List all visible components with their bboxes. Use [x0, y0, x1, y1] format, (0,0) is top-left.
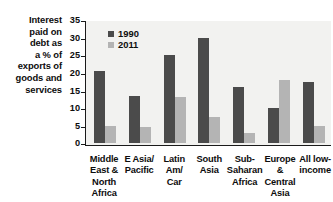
bar-1990: [94, 71, 105, 143]
bar-group: [192, 21, 227, 143]
bar-2011: [140, 127, 151, 144]
bar-group: [261, 21, 296, 143]
y-axis-tick-label: 25: [66, 52, 80, 61]
y-axis-caption-line: paid on: [0, 26, 62, 38]
x-axis-category-label-line: All low-: [298, 154, 333, 165]
bar-group: [296, 21, 331, 143]
x-axis-category-label: SouthAsia: [192, 154, 227, 200]
legend-item-2011: 2011: [108, 40, 139, 49]
x-axis-category-label-line: Pacific: [122, 165, 157, 176]
y-axis-caption-line: goods and: [0, 72, 62, 84]
y-axis-caption-line: Interest: [0, 14, 62, 26]
bar-2011: [105, 126, 116, 144]
y-axis-caption: Interestpaid ondebt asa % ofexports ofgo…: [0, 14, 62, 95]
y-axis-tick-label: 30: [66, 34, 80, 43]
chart-legend: 19902011: [108, 29, 139, 50]
bar-2011: [244, 133, 255, 144]
x-axis-category-label-line: Latin: [157, 154, 192, 165]
x-axis-category-label-line: Asia: [262, 188, 297, 199]
x-axis-category-label-line: South: [192, 154, 227, 165]
x-axis-category-label: Sub-SaharanAfrica: [227, 154, 263, 200]
legend-label: 1990: [118, 29, 139, 38]
bar-2011: [279, 80, 290, 143]
x-axis-category-label-line: Middle: [87, 154, 122, 165]
legend-label: 2011: [118, 40, 138, 49]
x-axis-category-label-line: income: [298, 165, 333, 176]
plot-wrapper: 35302520151050 19902011 MiddleEast &Nort…: [66, 14, 331, 202]
plot-area: 19902011: [85, 21, 331, 146]
bar-1990: [129, 96, 140, 144]
x-axis-category-label-line: Sub-: [227, 154, 263, 165]
x-axis-category-label: LatinAm/Car: [157, 154, 192, 200]
x-axis-category-label-line: Am/: [157, 165, 192, 176]
x-axis-category-label: MiddleEast &NorthAfrica: [87, 154, 122, 200]
y-axis-tick-label: 0: [66, 140, 80, 149]
y-axis-caption-line: exports of: [0, 60, 62, 72]
y-axis-caption-line: services: [0, 84, 62, 96]
legend-item-1990: 1990: [108, 29, 139, 38]
legend-swatch-icon: [108, 42, 114, 48]
bar-1990: [233, 87, 244, 143]
bar-2011: [209, 117, 220, 143]
bar-group: [157, 21, 192, 143]
x-axis-category-label-line: North: [87, 177, 122, 188]
y-axis-tick-column: 35302520151050: [66, 14, 80, 142]
y-axis-caption-line: debt as: [0, 37, 62, 49]
x-axis-category-label-line: East &: [87, 165, 122, 176]
y-axis-caption-line: a % of: [0, 49, 62, 61]
x-axis-category-labels: MiddleEast &NorthAfricaE Asia/PacificLat…: [87, 154, 333, 200]
x-axis-category-label-line: Central: [262, 177, 297, 188]
y-axis-tick-label: 20: [66, 69, 80, 78]
x-axis-category-label-line: Europe: [262, 154, 297, 165]
x-axis-category-label-line: Africa: [87, 188, 122, 199]
bar-1990: [268, 108, 279, 143]
y-axis-tick-label: 10: [66, 105, 80, 114]
x-axis-category-label-line: Saharan: [227, 165, 263, 176]
x-axis-category-label: All low-income: [298, 154, 333, 200]
legend-swatch-icon: [108, 31, 114, 37]
x-axis-category-label-line: Asia: [192, 165, 227, 176]
y-axis-tick-label: 5: [66, 122, 80, 131]
y-axis-tick-label: 35: [66, 16, 80, 25]
bar-group: [227, 21, 262, 143]
bar-1990: [164, 55, 175, 144]
bar-2011: [314, 126, 325, 144]
x-axis-category-label: Europe&CentralAsia: [262, 154, 297, 200]
bar-1990: [198, 38, 209, 144]
y-axis-tick-label: 15: [66, 87, 80, 96]
bar-2011: [175, 97, 186, 144]
x-axis-category-label-line: Africa: [227, 177, 263, 188]
bar-1990: [303, 82, 314, 144]
x-axis-category-label-line: &: [262, 165, 297, 176]
x-axis-category-label: E Asia/Pacific: [122, 154, 157, 200]
x-axis-category-label-line: Car: [157, 177, 192, 188]
x-axis-category-label-line: E Asia/: [122, 154, 157, 165]
